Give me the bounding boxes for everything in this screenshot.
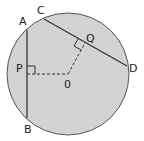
label-d: D: [129, 62, 137, 75]
label-b: B: [24, 123, 32, 136]
label-p: P: [16, 62, 23, 75]
label-q: Q: [86, 32, 95, 45]
label-c: C: [37, 4, 45, 17]
label-a: A: [19, 15, 27, 28]
circle-chord-diagram: A C Q D P 0 B: [0, 0, 144, 141]
label-o: 0: [64, 78, 71, 91]
